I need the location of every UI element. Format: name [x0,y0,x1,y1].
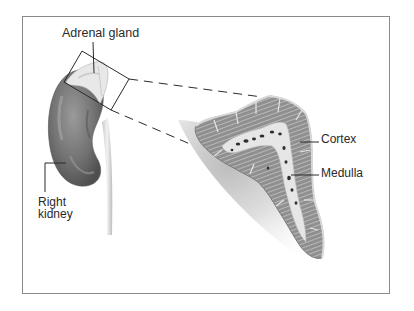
label-medulla: Medulla [321,167,363,179]
label-right-kidney-line2: kidney [38,208,73,220]
label-cortex: Cortex [321,133,356,145]
label-adrenal-gland: Adrenal gland [62,27,139,39]
adrenal-diagram-illustration [0,0,414,311]
label-right-kidney: Right kidney [38,196,73,220]
